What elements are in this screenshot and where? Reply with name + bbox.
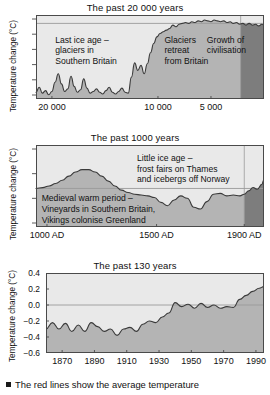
chart-annotation: Medieval warm period – Vineyards in Sout… <box>42 193 156 225</box>
plot-area: Little ice age – frost fairs on Thames a… <box>31 145 259 227</box>
chart-annotation: Growth of civilisation <box>207 35 246 56</box>
chart-annotation: Last ice age – glaciers in Southern Brit… <box>55 35 117 67</box>
x-tick-label: 1990 <box>246 356 266 366</box>
y-tick-label: 0.2 <box>28 284 40 294</box>
x-axis-tick-labels: 1000 AD1500 AD1900 AD <box>36 229 264 243</box>
y-axis-label: Temperature change (°C) <box>9 20 18 112</box>
y-axis-label: Temperature change (°C) <box>9 148 18 240</box>
chart-annotation: Glaciers retreat from Britain <box>164 35 208 67</box>
chart-title: The past 1000 years <box>0 132 270 143</box>
chart-title: The past 130 years <box>0 260 270 271</box>
figure-caption: The red lines show the average temperatu… <box>6 379 270 390</box>
x-tick-label: 1500 AD <box>139 230 174 240</box>
x-axis-tick-labels: 1870189019101930195019701990 <box>46 355 264 369</box>
x-tick-label: 1890 <box>84 356 104 366</box>
square-bullet-icon <box>6 382 11 387</box>
x-tick-label: 1970 <box>214 356 234 366</box>
y-tick-label: 0.4 <box>28 268 40 278</box>
x-tick-label: 1900 AD <box>227 230 262 240</box>
x-tick-label: 5 000 <box>200 102 223 112</box>
chart-title: The past 20 000 years <box>0 2 270 13</box>
y-axis-tick-labels: 0.40.20.0−0.2−0.4−0.6 <box>18 273 42 353</box>
chart-svg <box>46 273 264 353</box>
chart-panel-past-20000-years: The past 20 000 years Temperature change… <box>0 0 270 128</box>
plot-area: Last ice age – glaciers in Southern Brit… <box>31 15 259 99</box>
y-tick-label: −0.4 <box>23 332 40 342</box>
chart-panel-past-130-years: The past 130 years Temperature change (°… <box>0 258 270 373</box>
y-tick-label: 0.0 <box>28 300 40 310</box>
y-tick-label: −0.6 <box>23 348 40 358</box>
x-tick-label: 20 000 <box>38 102 66 112</box>
chart-annotation: Little ice age – frost fairs on Thames a… <box>137 153 230 185</box>
climate-figure: The past 20 000 years Temperature change… <box>0 0 270 395</box>
x-tick-label: 1870 <box>52 356 72 366</box>
x-axis-tick-labels: 20 00010 0005 000 <box>36 101 264 115</box>
chart-panel-past-1000-years: The past 1000 years Temperature change (… <box>0 130 270 255</box>
x-tick-label: 10 000 <box>144 102 172 112</box>
plot-area <box>46 273 264 353</box>
highlight-band <box>241 15 264 99</box>
x-tick-label: 1910 <box>117 356 137 366</box>
x-tick-label: 1930 <box>149 356 169 366</box>
y-axis-label: Temperature change (°C) <box>8 270 17 362</box>
caption-text: The red lines show the average temperatu… <box>15 379 199 390</box>
x-tick-label: 1950 <box>181 356 201 366</box>
x-tick-label: 1000 AD <box>30 230 65 240</box>
y-tick-label: −0.2 <box>23 316 40 326</box>
